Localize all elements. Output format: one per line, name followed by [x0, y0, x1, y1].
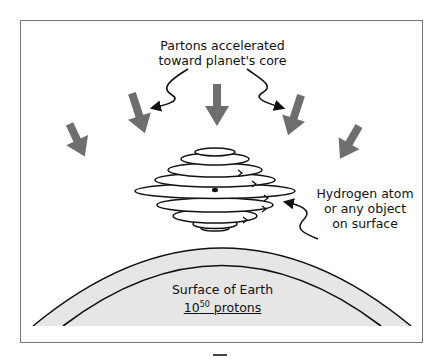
- curved-arrow-right-icon: [247, 69, 283, 108]
- proton-count-exponent: 50: [200, 300, 210, 309]
- gravity-arrow-icon: [277, 92, 313, 139]
- gravity-arrow-icon: [59, 119, 96, 162]
- proton-count-unit: protons: [210, 300, 261, 315]
- object-label: Hydrogen atom or any object on surface: [310, 186, 420, 231]
- object-label-line1: Hydrogen atom: [310, 186, 420, 201]
- curved-arrow-left-icon: [152, 69, 188, 108]
- page-fragment-mark: [213, 354, 227, 356]
- partons-label: Partons accelerated toward planet's core: [140, 38, 305, 68]
- proton-count-base: 10: [184, 300, 200, 315]
- earth-label-line1: Surface of Earth: [150, 282, 295, 297]
- object-center-dot: [212, 188, 218, 192]
- object-label-line3: on surface: [310, 216, 420, 231]
- gravity-arrow-icon: [121, 90, 157, 137]
- earth-label: Surface of Earth 1050 protons: [150, 282, 295, 315]
- partons-label-line1: Partons accelerated: [140, 38, 305, 53]
- gravity-arrow-icon: [205, 84, 229, 126]
- gravity-arrow-icon: [330, 120, 370, 165]
- proton-count: 1050 protons: [150, 297, 295, 315]
- partons-label-line2: toward planet's core: [140, 53, 305, 68]
- object-stack: [135, 148, 295, 231]
- object-label-line2: or any object: [310, 201, 420, 216]
